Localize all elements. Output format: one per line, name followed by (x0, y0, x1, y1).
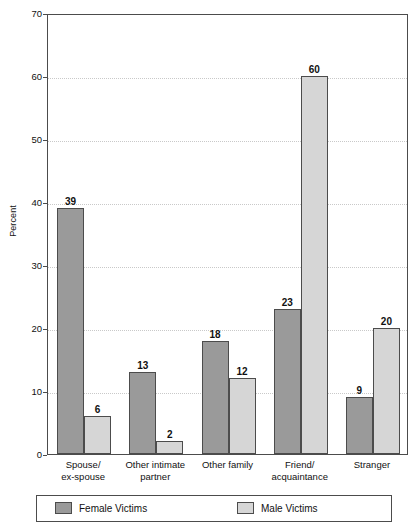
category-label-line1: Friend/ (285, 459, 315, 470)
legend: Female VictimsMale Victims (36, 495, 392, 522)
category-label-line2: partner (119, 471, 191, 483)
x-axis-category-label: Friend/acquaintance (264, 459, 336, 483)
bar-value-label: 39 (65, 197, 76, 207)
y-axis-tick-label: 70 (12, 9, 42, 19)
bar-value-label: 12 (236, 367, 247, 377)
bar-value-label: 23 (282, 298, 293, 308)
legend-swatch-female (55, 502, 72, 514)
y-axis-tick-label: 60 (12, 72, 42, 82)
x-axis-category-label: Other intimatepartner (119, 459, 191, 483)
category-label-line2: acquaintance (264, 471, 336, 483)
category-label-line1: Other intimate (125, 459, 185, 470)
bar-group: 1812 (202, 15, 256, 454)
legend-item[interactable]: Male Victims (237, 502, 318, 514)
legend-swatch-male (237, 502, 254, 514)
x-axis-category-label: Other family (191, 459, 263, 471)
legend-item[interactable]: Female Victims (55, 502, 147, 514)
bar-chart: Percent 010203040506070 3961321812236092… (0, 0, 416, 529)
bar-value-label: 9 (357, 386, 363, 396)
bar[interactable]: 9 (346, 397, 373, 454)
bar[interactable]: 39 (57, 208, 84, 454)
x-axis-category-label: Stranger (336, 459, 408, 471)
bar-group: 396 (57, 15, 111, 454)
bar[interactable]: 2 (156, 441, 183, 454)
category-label-line1: Spouse/ (66, 459, 101, 470)
bar-group: 920 (346, 15, 400, 454)
y-axis-tick-label: 10 (12, 387, 42, 397)
bar-group: 2360 (274, 15, 328, 454)
plot-area: 39613218122360920 (47, 14, 408, 455)
y-axis-tick-label: 0 (12, 450, 42, 460)
y-axis-tick-label: 20 (12, 324, 42, 334)
bar[interactable]: 60 (301, 76, 328, 454)
y-axis-tick-label: 30 (12, 261, 42, 271)
x-axis-category-label: Spouse/ex-spouse (47, 459, 119, 483)
bar-value-label: 13 (137, 361, 148, 371)
category-label-line2: ex-spouse (47, 471, 119, 483)
bar[interactable]: 6 (84, 416, 111, 454)
y-axis-title: Percent (8, 186, 18, 256)
y-axis-tick-mark (43, 455, 47, 456)
category-label-line1: Stranger (354, 459, 390, 470)
bar-group: 132 (129, 15, 183, 454)
legend-label: Female Victims (79, 503, 147, 514)
y-axis-tick-label: 50 (12, 135, 42, 145)
category-label-line1: Other family (202, 459, 253, 470)
bar-value-label: 18 (209, 330, 220, 340)
y-axis-tick-label: 40 (12, 198, 42, 208)
bar[interactable]: 13 (129, 372, 156, 454)
bar-value-label: 2 (167, 430, 173, 440)
bar[interactable]: 18 (202, 341, 229, 454)
legend-label: Male Victims (261, 503, 318, 514)
bar-value-label: 60 (309, 65, 320, 75)
bar[interactable]: 12 (229, 378, 256, 454)
bar-value-label: 6 (95, 405, 101, 415)
bar-value-label: 20 (381, 317, 392, 327)
bar[interactable]: 20 (373, 328, 400, 454)
bar[interactable]: 23 (274, 309, 301, 454)
